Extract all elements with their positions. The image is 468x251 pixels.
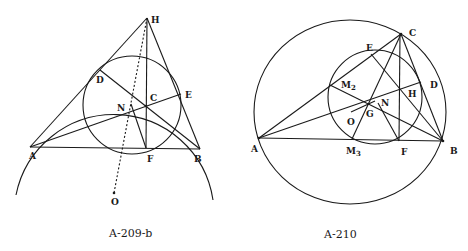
figure-a-209-b: H D C E N A F B O A-209-b xyxy=(16,15,213,240)
line-nf xyxy=(378,103,399,141)
point-c xyxy=(400,33,403,36)
label-o: O xyxy=(111,197,119,207)
circumcircle-arc xyxy=(16,115,213,200)
label-m2: M2 xyxy=(341,80,356,92)
label-f: F xyxy=(147,154,154,164)
line-nf xyxy=(131,104,146,148)
label-d: D xyxy=(96,75,104,85)
label-e: E xyxy=(366,43,373,53)
label-b: B xyxy=(194,154,202,164)
line-hf xyxy=(146,18,147,148)
label-b: B xyxy=(450,146,458,156)
label-o: O xyxy=(347,117,355,127)
label-f: F xyxy=(401,147,408,157)
label-a: A xyxy=(250,144,259,154)
caption-a-210: A-210 xyxy=(323,228,357,241)
nine-point-circle xyxy=(83,56,181,154)
line-ae xyxy=(30,94,181,147)
label-g: G xyxy=(366,109,374,119)
point-c xyxy=(145,105,148,108)
label-n: N xyxy=(117,103,125,113)
line-ac xyxy=(259,34,401,138)
line-db xyxy=(100,70,200,149)
line-ab xyxy=(30,147,200,149)
label-c: C xyxy=(150,93,157,103)
label-h: H xyxy=(151,15,160,25)
label-h: H xyxy=(408,89,417,99)
caption-a-209-b: A-209-b xyxy=(108,227,152,240)
label-e: E xyxy=(185,90,192,100)
label-d: D xyxy=(430,80,438,90)
label-m3: M3 xyxy=(346,146,361,158)
figure-a-210: C E D M2 H N O G A M3 F B A-210 xyxy=(250,20,458,241)
point-o xyxy=(113,192,116,195)
label-c: C xyxy=(409,28,416,38)
circumcircle xyxy=(254,20,446,204)
point-a xyxy=(258,137,261,140)
diagram-canvas: H D C E N A F B O A-209-b xyxy=(0,0,468,251)
point-b xyxy=(442,140,445,143)
line-hb xyxy=(147,18,200,149)
label-a: A xyxy=(28,151,37,161)
label-n: N xyxy=(381,98,389,108)
line-ab xyxy=(259,138,443,141)
